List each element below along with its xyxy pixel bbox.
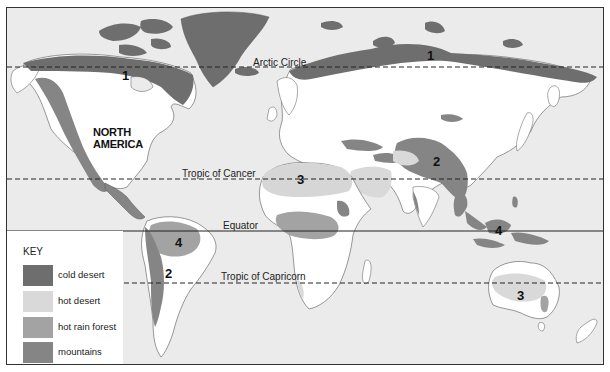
key-item-hot-rain-forest: hot rain forest [23,317,123,338]
equator-label: Equator [223,220,258,231]
key-label-mountains: mountains [58,346,102,357]
key-item-mountains: mountains [23,342,123,363]
region-number-sahara-hot-desert: 3 [297,172,304,187]
key-label-hot-desert: hot desert [58,295,100,306]
region-number-asia-mountains: 2 [433,154,440,169]
region-number-andes-mountains: 2 [165,266,172,281]
hot-desert-swatch [23,291,53,312]
sahara-hot-desert [262,163,352,197]
key-label-hot-rain-forest: hot rain forest [58,321,116,332]
region-number-amazon-rain-forest: 4 [175,235,182,250]
arctic-circle-label: Arctic Circle [253,57,306,68]
greenland-cold-desert [181,12,269,87]
hot-rain-forest-swatch [23,317,53,338]
tropic-of-cancer-label: Tropic of Cancer [182,168,256,179]
region-number-eurasia-cold-desert: 1 [427,48,434,63]
region-number-australia-hot-desert: 3 [517,288,524,303]
north-america-label-line1: NORTH [93,126,143,138]
tropic-of-capricorn-label: Tropic of Capricorn [221,271,306,282]
key-title: KEY [23,246,43,257]
north-america-label: NORTH AMERICA [93,126,143,150]
world-map: Arctic Circle Tropic of Cancer Equator T… [6,7,604,365]
cold-desert-swatch [23,265,53,286]
map-key: KEY cold desert hot desert hot rain fore… [7,231,123,365]
key-label-cold-desert: cold desert [58,269,104,280]
key-item-cold-desert: cold desert [23,265,123,286]
region-number-na-cold-desert: 1 [122,68,129,83]
north-america-label-line2: AMERICA [93,138,143,150]
mountains-swatch [23,342,53,363]
region-number-indonesia-rain-forest: 4 [495,223,502,238]
key-item-hot-desert: hot desert [23,291,123,312]
